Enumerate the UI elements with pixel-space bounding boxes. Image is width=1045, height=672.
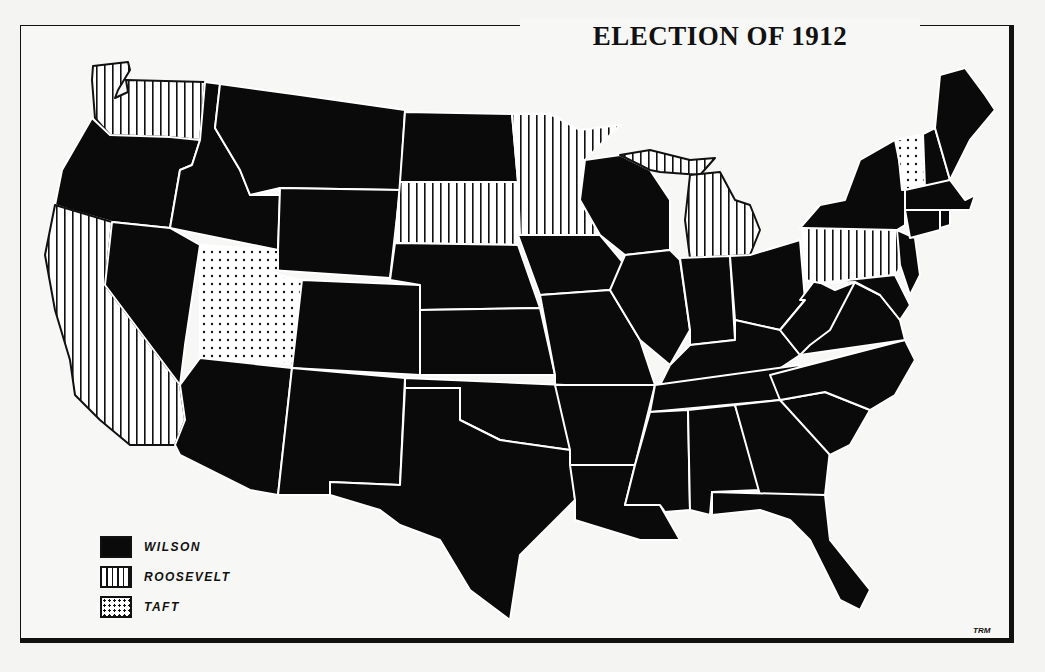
state-colorado — [292, 280, 420, 375]
state-iowa — [518, 235, 625, 295]
state-vermont — [897, 134, 925, 190]
state-washington — [92, 62, 205, 140]
wilson-swatch-icon — [100, 536, 132, 558]
state-south-dakota — [395, 182, 518, 245]
legend-label: ROOSEVELT — [144, 570, 231, 584]
legend-label: WILSON — [144, 540, 201, 554]
legend: WILSON ROOSEVELT TAFT — [100, 532, 231, 622]
state-michigan-lower — [685, 172, 760, 258]
state-north-dakota — [400, 112, 518, 182]
state-new-mexico — [278, 368, 405, 495]
legend-item-wilson: WILSON — [100, 532, 231, 562]
map-title: ELECTION OF 1912 — [587, 21, 854, 52]
state-montana — [215, 84, 405, 195]
state-arizona — [175, 358, 292, 495]
legend-item-roosevelt: ROOSEVELT — [100, 562, 231, 592]
legend-label: TAFT — [144, 600, 180, 614]
state-florida — [712, 492, 870, 610]
state-kansas — [420, 308, 555, 375]
state-wyoming — [270, 188, 400, 278]
map-title-wrap: ELECTION OF 1912 — [520, 18, 920, 54]
legend-item-taft: TAFT — [100, 592, 231, 622]
roosevelt-swatch-icon — [100, 566, 132, 588]
taft-swatch-icon — [100, 596, 132, 618]
map-credit: TRM — [973, 626, 990, 635]
state-new-york — [800, 140, 905, 230]
state-connecticut — [905, 210, 940, 238]
state-rhode-island — [940, 210, 950, 228]
